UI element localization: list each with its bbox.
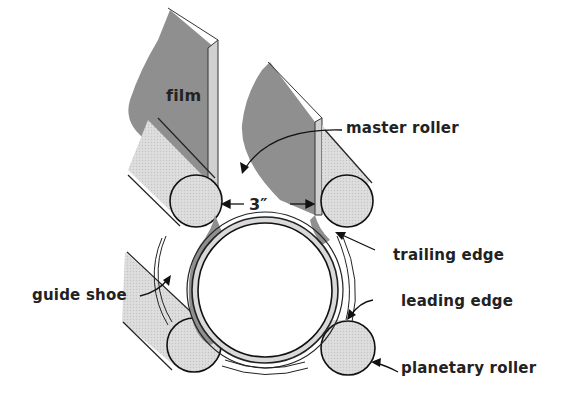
upper-right-roller [321, 125, 373, 228]
roller-diagram [0, 0, 566, 412]
label-dimension-3in: 3″ [249, 195, 268, 214]
label-master-roller: master roller [346, 119, 459, 137]
label-trailing-edge: trailing edge [393, 246, 504, 264]
label-planetary-roller: planetary roller [401, 359, 536, 377]
lower-right-planetary-roller [321, 320, 375, 375]
label-guide-shoe: guide shoe [32, 286, 127, 304]
label-leading-edge: leading edge [401, 292, 513, 310]
label-film: film [166, 86, 201, 105]
